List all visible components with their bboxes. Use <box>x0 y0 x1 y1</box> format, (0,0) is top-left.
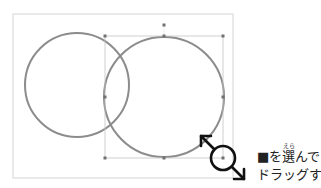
caption-ruby: 選えら <box>282 149 295 164</box>
arrow-down-right-icon <box>232 167 244 179</box>
slide-frame <box>13 14 233 178</box>
caption-line1-suffix: んで <box>295 149 320 164</box>
caption-line-1: ■を選えらんで <box>257 142 321 166</box>
handle-bottom-center[interactable] <box>163 157 166 160</box>
caption-ruby-reading: えら <box>282 142 295 149</box>
instruction-caption: ■を選えらんで ドラッグする。 <box>257 142 321 184</box>
handle-bottom-left[interactable] <box>104 157 107 160</box>
handle-top-center[interactable] <box>163 35 166 38</box>
handle-top-right[interactable] <box>222 35 225 38</box>
caption-line-2: ドラッグする。 <box>257 166 321 184</box>
handle-middle-right[interactable] <box>222 96 225 99</box>
handle-middle-left[interactable] <box>104 96 107 99</box>
handle-bottom-right[interactable] <box>222 157 225 160</box>
caption-line1-prefix: ■を <box>257 149 282 164</box>
handle-top-left[interactable] <box>104 35 107 38</box>
rotation-handle[interactable] <box>163 24 166 27</box>
